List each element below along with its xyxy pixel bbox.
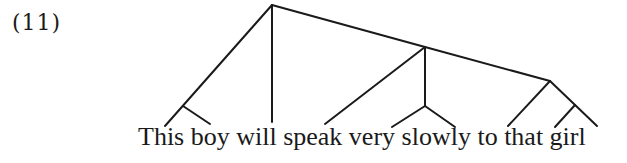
tree-edges — [165, 5, 597, 127]
tree-branch-vp — [272, 5, 425, 47]
tree-branch-girl — [550, 81, 597, 126]
tree-branch-this — [165, 5, 272, 126]
tree-branch-to — [508, 81, 550, 126]
tree-branch-speak — [325, 47, 425, 124]
sentence-text: This boy will speak very slowly to that … — [138, 122, 586, 152]
tree-branch-pp — [425, 47, 550, 81]
